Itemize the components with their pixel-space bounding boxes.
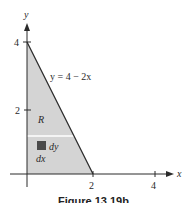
x-axis-label: x — [176, 168, 182, 179]
x-axis-arrow-icon — [166, 171, 174, 177]
dy-label: dy — [49, 141, 59, 152]
x-tick-label-2: 2 — [89, 180, 94, 191]
figure: 2 4 2 4 x y y = 4 − 2x R dy dx Figure 13… — [0, 0, 195, 203]
area-element-square — [37, 141, 46, 150]
y-tick-label-4: 4 — [14, 37, 19, 48]
dx-label: dx — [36, 153, 46, 164]
y-axis-label: y — [23, 9, 29, 20]
curve-label: y = 4 − 2x — [50, 71, 91, 82]
region-label: R — [37, 114, 44, 125]
figure-caption: Figure 13.19b — [58, 196, 138, 203]
region-plot: 2 4 2 4 x y y = 4 − 2x R dy dx — [0, 0, 195, 203]
y-tick-label-2: 2 — [15, 105, 20, 116]
x-tick-label-4: 4 — [151, 180, 156, 191]
y-axis-arrow-icon — [24, 23, 30, 31]
